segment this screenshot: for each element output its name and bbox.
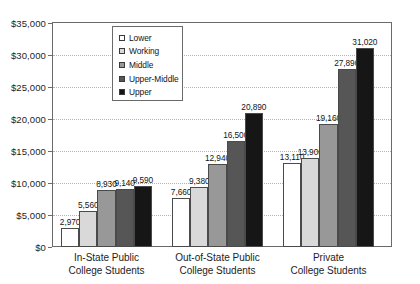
bar — [356, 48, 374, 247]
legend-swatch-icon — [119, 62, 125, 68]
y-tick-label: $30,000 — [11, 50, 46, 61]
y-tick-label: $35,000 — [11, 18, 46, 29]
x-category-label: Private College Students — [259, 252, 399, 277]
bar — [79, 211, 97, 247]
bar-value-label: 9,590 — [128, 175, 158, 185]
legend-item-label: Lower — [129, 33, 152, 43]
bar — [61, 228, 79, 247]
y-tick-label: $10,000 — [11, 178, 46, 189]
bar — [227, 141, 245, 247]
bar-value-label: 31,020 — [350, 37, 380, 47]
bar — [208, 164, 226, 247]
legend-item[interactable]: Middle — [119, 58, 182, 72]
bar — [134, 186, 152, 247]
legend-swatch-icon — [119, 76, 125, 82]
legend-item-label: Upper — [129, 87, 152, 97]
bar — [190, 187, 208, 247]
y-tick-label: $0 — [35, 242, 46, 253]
bar — [319, 124, 337, 247]
legend-item[interactable]: Working — [119, 45, 182, 59]
legend-swatch-icon — [119, 35, 125, 41]
legend-item[interactable]: Upper-Middle — [119, 72, 182, 86]
legend-item[interactable]: Lower — [119, 31, 182, 45]
bar — [301, 158, 319, 247]
legend: LowerWorkingMiddleUpper-MiddleUpper — [112, 26, 183, 101]
legend-item-label: Working — [129, 46, 159, 56]
bar — [283, 163, 301, 247]
bar — [97, 190, 115, 247]
legend-swatch-icon — [119, 89, 125, 95]
bar — [338, 69, 356, 247]
bar-value-label: 20,890 — [239, 102, 269, 112]
bars-layer: 2,9705,5608,9309,1409,5907,6609,38012,94… — [53, 23, 391, 247]
bar-chart: $0$5,000$10,000$15,000$20,000$25,000$30,… — [0, 0, 420, 284]
legend-item-label: Middle — [129, 60, 153, 70]
legend-swatch-icon — [119, 48, 125, 54]
bar — [245, 113, 263, 247]
bar — [116, 189, 134, 247]
legend-item-label: Upper-Middle — [129, 74, 179, 84]
y-tick-label: $25,000 — [11, 82, 46, 93]
legend-item[interactable]: Upper — [119, 85, 182, 99]
y-tick-label: $20,000 — [11, 114, 46, 125]
bar — [172, 198, 190, 247]
y-tick-label: $15,000 — [11, 146, 46, 157]
y-tick-mark — [48, 247, 52, 248]
y-tick-label: $5,000 — [16, 210, 46, 221]
